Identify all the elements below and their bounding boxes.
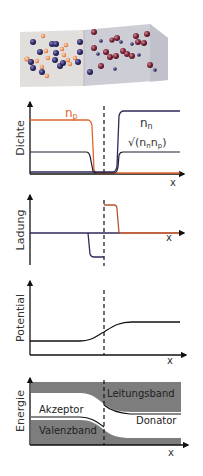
chart-ladung: Ladung x bbox=[14, 195, 184, 266]
y-label-dichte: Dichte bbox=[14, 120, 27, 156]
crystal-block bbox=[20, 24, 168, 87]
y-label-energie: Energie bbox=[14, 390, 27, 432]
label-donator: Donator bbox=[136, 415, 177, 426]
negative-charge bbox=[88, 233, 104, 257]
x-label: x bbox=[168, 447, 174, 458]
label-n-n: nn bbox=[140, 116, 153, 131]
chart-energie: Energie x Leitungsband Akzeptor Valenzba… bbox=[14, 378, 188, 458]
chart-dichte: Dichte x np nn √(nnnp) bbox=[14, 102, 184, 188]
chart-potential: Potential x bbox=[14, 281, 186, 366]
label-akzeptor: Akzeptor bbox=[39, 404, 84, 415]
y-label-potential: Potential bbox=[14, 294, 27, 342]
x-label: x bbox=[167, 355, 173, 366]
positive-charge bbox=[104, 205, 119, 233]
pn-junction-figure: Dichte x np nn √(nnnp) Ladung x Potentia… bbox=[0, 0, 203, 476]
x-label: x bbox=[166, 232, 172, 243]
y-label-ladung: Ladung bbox=[14, 210, 27, 251]
label-sqrt: √(nnnp) bbox=[128, 136, 166, 150]
potential-curve bbox=[30, 322, 180, 341]
x-label: x bbox=[170, 177, 176, 188]
sqrt-curve bbox=[30, 152, 180, 173]
label-leitungsband: Leitungsband bbox=[107, 388, 175, 399]
label-n-p: np bbox=[65, 106, 78, 121]
label-valenzband: Valenzband bbox=[39, 425, 97, 436]
